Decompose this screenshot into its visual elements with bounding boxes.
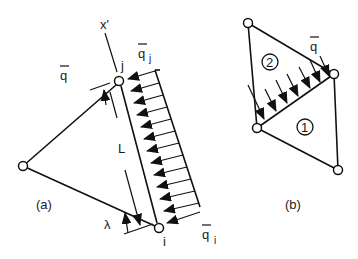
edge-top [248,23,334,74]
distributed-load-arrows [128,71,200,223]
x-prime-axis [105,33,117,72]
load-label-q: q [60,68,67,83]
node-left [19,162,28,171]
top-tick [90,83,110,90]
edge-shared [257,74,334,128]
edge-bottom [257,128,338,170]
edge-left [248,23,257,128]
node-b-bottom-right [334,166,343,175]
load-label-q-b: q [310,39,317,54]
edge-j-i [121,86,157,223]
length-dim-lower [125,170,140,225]
node-j [115,77,124,86]
lambda-label: λ [104,217,111,232]
element-1-label: 1 [301,120,308,135]
node-b-bottom-left [253,124,262,133]
figure-b-label: (b) [285,197,301,212]
edge-left-j [23,85,116,166]
node-i [155,224,164,233]
figure-a: x' j i L λ (a) q q j q i [19,17,217,249]
element-2-label: 2 [266,55,273,70]
node-label-i: i [163,234,166,249]
length-label: L [118,141,125,156]
axis-label-x-prime: x' [100,17,109,32]
node-label-j: j [120,58,124,73]
node-b-right [330,70,339,79]
edge-right [334,74,338,170]
edge-left-i [23,166,155,226]
diagram-canvas: x' j i L λ (a) q q j q i [0,0,358,259]
figure-b: 2 1 q (b) [244,19,343,213]
load-label-qj: q [138,46,145,61]
figure-a-label: (a) [36,197,52,212]
top-arrow [104,90,106,105]
load-label-qi: q [202,227,209,242]
load-label-qj-sub: j [148,53,151,64]
load-label-qi-sub: i [214,235,216,246]
length-dim-upper [110,92,117,118]
lambda-arrow [125,213,128,233]
shared-edge-load-arrows [248,56,329,119]
node-b-top-left [244,19,253,28]
